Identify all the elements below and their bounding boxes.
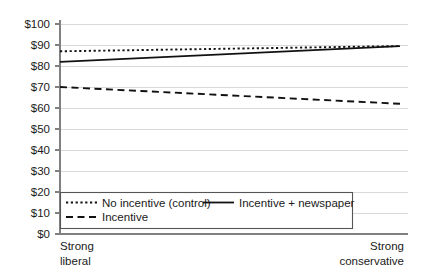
y-tick-label-10: $10 [31,207,50,219]
legend-label-incentive-newspaper: Incentive + newspaper [239,197,355,209]
y-tick-label-60: $60 [31,102,50,114]
x-tick-label-right-line2: conservative [339,255,404,267]
x-tick-label-left-line2: liberal [60,255,91,267]
chart-canvas: $100 $90 $80 $70 $60 $50 $40 $30 $20 $10… [0,0,431,279]
x-axis-labels: Strong liberal Strong conservative [60,240,404,267]
x-tick-label-left-line1: Strong [60,240,94,252]
y-tick-label-80: $80 [31,60,50,72]
legend-label-incentive: Incentive [102,211,148,223]
y-tick-label-0: $0 [37,228,50,240]
line-chart: $100 $90 $80 $70 $60 $50 $40 $30 $20 $10… [0,0,431,279]
y-tick-label-20: $20 [31,186,50,198]
y-tick-label-50: $50 [31,123,50,135]
y-tick-label-30: $30 [31,165,50,177]
series-incentive [60,87,400,104]
gridlines [60,24,408,213]
y-tick-marks [55,24,60,234]
chart-legend: No incentive (control) Incentive + newsp… [61,193,355,229]
legend-label-no-incentive-control: No incentive (control) [102,197,211,209]
y-axis-labels: $100 $90 $80 $70 $60 $50 $40 $30 $20 $10… [24,18,50,240]
x-tick-label-right-line1: Strong [370,240,404,252]
y-tick-label-70: $70 [31,81,50,93]
y-tick-label-90: $90 [31,39,50,51]
y-tick-label-40: $40 [31,144,50,156]
y-tick-label-100: $100 [24,18,50,30]
